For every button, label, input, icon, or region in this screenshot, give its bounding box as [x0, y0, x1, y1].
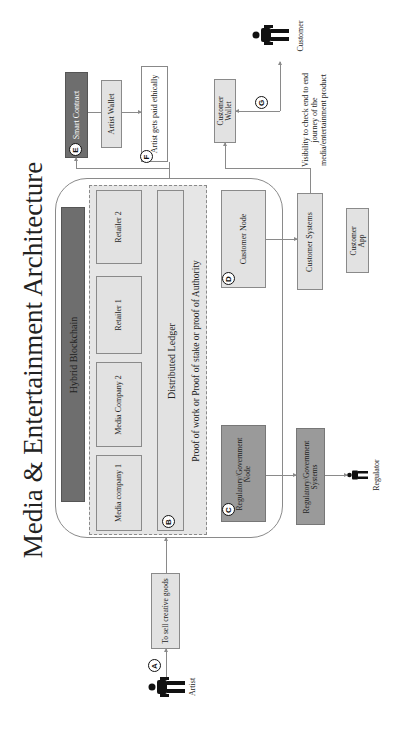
- connector-reg-node-systems: [266, 475, 296, 476]
- artist-person-icon: [148, 676, 188, 698]
- connector-artist-sell: [166, 649, 167, 677]
- connector-chain-to-contract: [76, 168, 169, 169]
- regulator-label-wrap: Regulator: [370, 455, 384, 495]
- customer-person-icon: [252, 24, 292, 46]
- visibility-text-wrap: Visibility to check end to end journey o…: [285, 60, 345, 180]
- artist-wallet: Artist Wallet: [101, 80, 122, 148]
- hybrid-blockchain-header: Hybrid Blockchain: [61, 207, 85, 502]
- badge-d: D: [222, 272, 235, 285]
- customer-label: Customer: [297, 20, 306, 51]
- connector-to-contract: [76, 158, 77, 168]
- participant-retailer-2: Retailer 2: [96, 190, 142, 264]
- artist-paid-ethically: Artist gets paid ethically: [141, 66, 168, 162]
- participant-media-company-1: Media company 1: [96, 455, 142, 531]
- regulatory-government-systems: Regulatory/Government Systems: [296, 428, 325, 525]
- connector-wallet-visibility: [236, 111, 280, 112]
- regulator-person-icon: [347, 468, 369, 482]
- connector-reg-systems-regulator: [325, 475, 347, 476]
- connector-sell-blockchain: [166, 538, 167, 573]
- artist-label-wrap: Artist: [186, 672, 200, 702]
- customer-label-wrap: Customer: [294, 14, 308, 58]
- connector-visibility-customer: [280, 62, 281, 111]
- customer-app: Customer App: [346, 208, 369, 273]
- connector-to-customer-wallet: [225, 143, 226, 168]
- customer-wallet: Customer Wallet: [214, 79, 236, 143]
- badge-a: A: [148, 659, 161, 672]
- participant-retailer-1: Retailer 1: [96, 276, 142, 354]
- visibility-text: Visibility to check end to end journey o…: [302, 65, 328, 175]
- customer-systems: Customer Systems: [297, 193, 323, 290]
- connector-chain-up: [169, 162, 170, 178]
- badge-f: F: [140, 150, 153, 163]
- badge-b: B: [162, 515, 175, 528]
- diagram-title-wrap: Media & Entertainment Architecture: [14, 160, 54, 560]
- artist-label: Artist: [189, 678, 198, 696]
- consensus-label-wrap: Proof of work or Proof of stake or proof…: [187, 190, 205, 531]
- participant-media-company-2: Media Company 2: [96, 362, 142, 447]
- regulator-label: Regulator: [373, 459, 382, 491]
- sell-creative-goods: To sell creative goods: [151, 573, 180, 649]
- badge-e: E: [69, 143, 82, 156]
- badge-g: G: [255, 96, 268, 109]
- connector-customer-node-systems: [266, 239, 297, 240]
- consensus-label: Proof of work or Proof of stake or proof…: [191, 260, 201, 462]
- badge-c: C: [222, 503, 235, 516]
- distributed-ledger: Distributed Ledger: [157, 190, 184, 531]
- connector-contract-wallet: [88, 112, 101, 113]
- connector-wallet-paid: [122, 112, 141, 113]
- diagram-title: Media & Entertainment Architecture: [19, 162, 49, 559]
